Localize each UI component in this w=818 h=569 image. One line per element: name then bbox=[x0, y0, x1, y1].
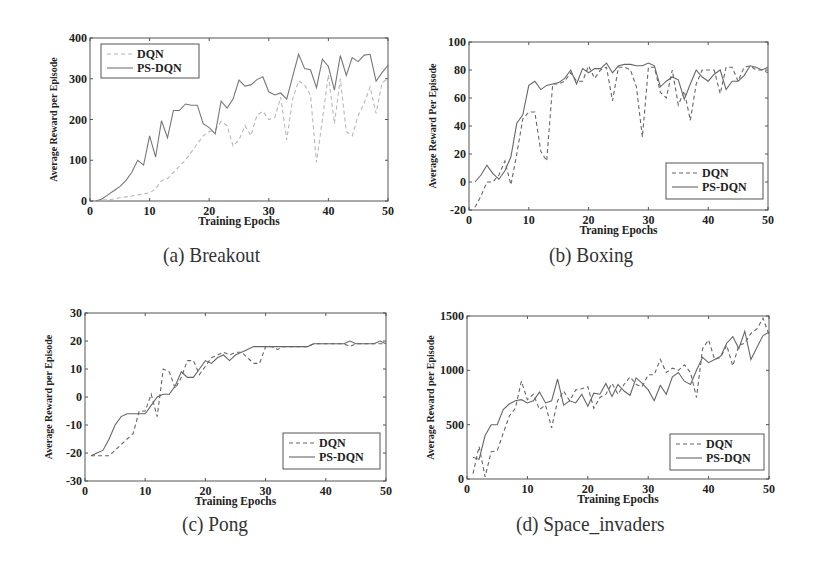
y-tick-label: 0 bbox=[76, 390, 82, 404]
y-tick-label: 500 bbox=[446, 418, 464, 432]
y-tick-label: 100 bbox=[69, 153, 87, 167]
x-tick-label: 50 bbox=[380, 484, 392, 498]
series-dqn bbox=[96, 75, 388, 201]
x-tick-label: 50 bbox=[763, 482, 775, 496]
y-tick-label: 300 bbox=[69, 72, 87, 86]
legend-label: PS-DQN bbox=[137, 61, 182, 75]
y-tick-label: 400 bbox=[69, 31, 87, 45]
y-tick-label: 20 bbox=[454, 147, 466, 161]
legend: DQNPS-DQN bbox=[101, 44, 199, 78]
y-axis-label: Average Reward per Episode bbox=[48, 57, 59, 182]
legend: DQNPS-DQN bbox=[666, 163, 763, 199]
x-tick-label: 0 bbox=[82, 484, 88, 498]
plot-d: 01020304050050010001500Training EpochsAv… bbox=[425, 309, 775, 506]
x-axis-label: Training Epochs bbox=[198, 215, 280, 228]
y-tick-label: 200 bbox=[69, 113, 87, 127]
y-tick-label: 10 bbox=[70, 362, 82, 376]
legend-label: DQN bbox=[702, 166, 729, 180]
y-tick-label: 20 bbox=[70, 334, 82, 348]
y-tick-label: 30 bbox=[70, 306, 82, 320]
x-tick-label: 40 bbox=[702, 213, 714, 227]
legend-label: DQN bbox=[706, 437, 733, 451]
legend-label: PS-DQN bbox=[702, 180, 747, 194]
legend: DQNPS-DQN bbox=[670, 434, 764, 470]
y-tick-label: 40 bbox=[454, 119, 466, 133]
legend-label: PS-DQN bbox=[706, 451, 751, 465]
plot-c: 01020304050-30-20-100102030Training Epoc… bbox=[43, 306, 392, 508]
x-tick-label: 50 bbox=[762, 213, 774, 227]
legend: DQNPS-DQN bbox=[283, 433, 380, 469]
x-tick-label: 10 bbox=[139, 484, 151, 498]
plot-a: 010203040500100200300400Training EpochsA… bbox=[48, 31, 394, 228]
legend-label: PS-DQN bbox=[319, 450, 364, 464]
y-tick-label: 1000 bbox=[440, 363, 464, 377]
x-tick-label: 0 bbox=[464, 482, 470, 496]
x-tick-label: 40 bbox=[320, 484, 332, 498]
x-tick-label: 50 bbox=[382, 204, 394, 218]
x-tick-label: 10 bbox=[521, 482, 533, 496]
y-tick-label: -30 bbox=[66, 474, 82, 488]
x-tick-label: 40 bbox=[322, 204, 334, 218]
y-tick-label: 0 bbox=[458, 472, 464, 486]
y-axis-label: Average Reward per Episode bbox=[43, 334, 54, 459]
y-axis-label: Average Reward Per Episode bbox=[427, 63, 438, 188]
y-tick-label: -10 bbox=[66, 418, 82, 432]
x-tick-label: 10 bbox=[144, 204, 156, 218]
y-tick-label: 80 bbox=[454, 63, 466, 77]
y-tick-label: 100 bbox=[448, 35, 466, 49]
legend-label: DQN bbox=[137, 47, 164, 61]
x-tick-label: 40 bbox=[703, 482, 715, 496]
y-tick-label: 0 bbox=[460, 175, 466, 189]
y-tick-label: 60 bbox=[454, 91, 466, 105]
y-tick-label: -20 bbox=[450, 203, 466, 217]
x-tick-label: 0 bbox=[466, 213, 472, 227]
plot-b: 01020304050-20020406080100Traning Epochs… bbox=[427, 35, 774, 237]
y-tick-label: 1500 bbox=[440, 309, 464, 323]
y-axis-label: Average Reward per Episode bbox=[425, 335, 436, 460]
x-tick-label: 10 bbox=[523, 213, 535, 227]
x-axis-label: Training Epochs bbox=[195, 495, 277, 508]
figure-canvas: 010203040500100200300400Training EpochsA… bbox=[0, 0, 818, 569]
legend-label: DQN bbox=[319, 436, 346, 450]
x-tick-label: 0 bbox=[87, 204, 93, 218]
x-axis-label: Training Epochs bbox=[577, 493, 659, 506]
y-tick-label: 0 bbox=[81, 194, 87, 208]
y-tick-label: -20 bbox=[66, 446, 82, 460]
x-axis-label: Traning Epochs bbox=[579, 224, 658, 237]
